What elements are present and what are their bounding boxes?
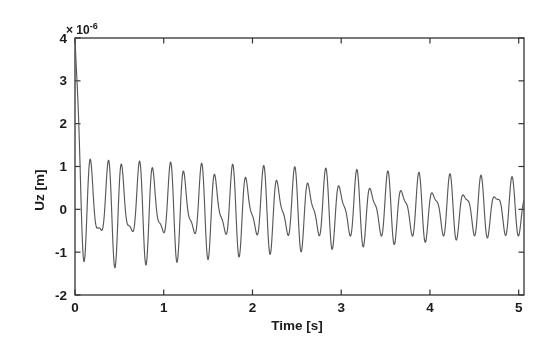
y-tick-label: -1 — [55, 245, 67, 260]
scanned-plot-figure: 01234543210-1-2 × 10-6 Time [s] Uz [m] — [0, 0, 556, 351]
tick-labels: 01234543210-1-2 — [55, 31, 523, 316]
tick-marks — [75, 38, 524, 295]
x-tick-label: 1 — [160, 300, 168, 315]
y-tick-label: -2 — [55, 288, 67, 303]
x-tick-label: 3 — [337, 300, 345, 315]
y-exponent-power: -6 — [90, 21, 98, 31]
plot-canvas: 01234543210-1-2 × 10-6 Time [s] Uz [m] — [0, 0, 556, 351]
x-tick-label: 5 — [515, 300, 523, 315]
y-axis-label: Uz [m] — [32, 169, 47, 210]
axes-box — [75, 38, 524, 295]
x-tick-label: 4 — [426, 300, 434, 315]
y-tick-label: 1 — [59, 159, 67, 174]
y-tick-label: 2 — [59, 116, 67, 131]
x-tick-label: 0 — [71, 300, 79, 315]
y-exponent-prefix: × 10 — [66, 23, 90, 37]
signal-curve-group — [75, 36, 524, 267]
x-tick-label: 2 — [249, 300, 257, 315]
y-tick-label: 0 — [59, 202, 67, 217]
signal-line — [75, 36, 524, 267]
y-exponent-label: × 10-6 — [66, 21, 98, 37]
y-tick-label: 3 — [59, 73, 67, 88]
x-axis-label: Time [s] — [271, 318, 323, 333]
